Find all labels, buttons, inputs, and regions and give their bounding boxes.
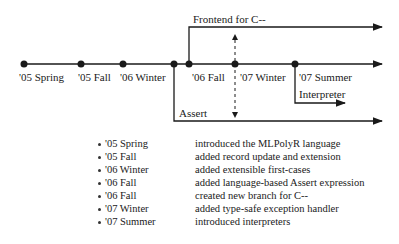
legend-item: '05 Spring introduced the MLPolyR langua… bbox=[98, 137, 364, 150]
bullet-icon bbox=[98, 208, 101, 211]
legend-date: '07 Winter bbox=[105, 203, 149, 214]
bullet-icon bbox=[98, 156, 101, 159]
legend-date: '05 Spring bbox=[105, 138, 148, 149]
bullet-icon bbox=[98, 143, 101, 146]
legend-item: '07 Winter added type-safe exception han… bbox=[98, 202, 364, 215]
milestone-dot bbox=[120, 61, 127, 68]
legend-description: created new branch for C-- bbox=[195, 189, 308, 202]
milestone-label-07-summer: '07 Summer bbox=[299, 71, 352, 83]
milestone-label-06-winter: '06 Winter bbox=[120, 71, 166, 83]
legend-description: added extensible first-cases bbox=[195, 163, 310, 176]
legend-date: '06 Winter bbox=[105, 164, 149, 175]
legend-date: '06 Fall bbox=[105, 190, 136, 201]
legend-item: '06 Winter added extensible first-cases bbox=[98, 163, 364, 176]
milestone-label-05-spring: '05 Spring bbox=[19, 71, 64, 83]
legend-item: '07 Summer introduced interpreters bbox=[98, 215, 364, 228]
dashed-arrow-down-icon bbox=[232, 112, 238, 118]
legend-date: '05 Fall bbox=[105, 151, 136, 162]
milestone-dot bbox=[78, 61, 85, 68]
legend-description: added record update and extension bbox=[195, 150, 341, 163]
frontend-branch-line bbox=[189, 27, 382, 64]
bullet-icon bbox=[98, 169, 101, 172]
milestone-label-07-winter: '07 Winter bbox=[240, 71, 286, 83]
branch-label-assert: Assert bbox=[179, 107, 207, 119]
branch-label-frontend: Frontend for C-- bbox=[193, 13, 266, 25]
bullet-icon bbox=[98, 221, 101, 224]
legend-item: '05 Fall added record update and extensi… bbox=[98, 150, 364, 163]
legend-item: '06 Fall created new branch for C-- bbox=[98, 189, 364, 202]
legend-list: '05 Spring introduced the MLPolyR langua… bbox=[98, 137, 364, 228]
milestone-label-05-fall: '05 Fall bbox=[78, 71, 111, 83]
milestone-dot bbox=[232, 61, 239, 68]
bullet-icon bbox=[98, 195, 101, 198]
legend-date: '06 Fall bbox=[105, 177, 136, 188]
milestone-label-06-fall: '06 Fall bbox=[192, 71, 225, 83]
milestone-dot bbox=[186, 61, 193, 68]
legend-description: added language-based Assert expression bbox=[195, 176, 364, 189]
branch-label-interpreter: Interpreter bbox=[299, 88, 345, 100]
legend-description: introduced interpreters bbox=[195, 215, 290, 228]
legend-description: introduced the MLPolyR language bbox=[195, 137, 341, 150]
milestone-dot bbox=[292, 61, 299, 68]
milestone-dot bbox=[21, 61, 28, 68]
bullet-icon bbox=[98, 182, 101, 185]
milestone-dot bbox=[171, 61, 178, 68]
legend-item: '06 Fall added language-based Assert exp… bbox=[98, 176, 364, 189]
legend-description: added type-safe exception handler bbox=[195, 202, 339, 215]
legend-date: '07 Summer bbox=[105, 216, 156, 227]
dashed-arrow-up-icon bbox=[232, 34, 238, 40]
